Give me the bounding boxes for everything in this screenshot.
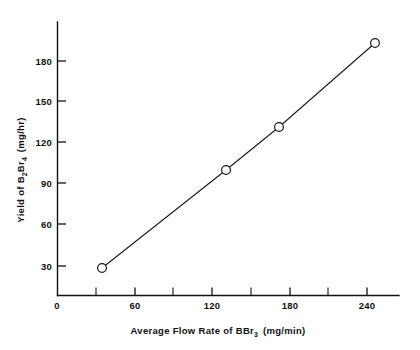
x-tick-label-180: 180	[282, 300, 298, 311]
y-axis-tick-labels: 30 60 90 120 150 180	[36, 56, 52, 272]
y-axis-title-mid: Br	[15, 161, 26, 172]
x-tick-label-60: 60	[130, 300, 141, 311]
data-point-4	[371, 39, 380, 48]
data-point-3	[275, 123, 284, 132]
y-axis-title-post: (mg/hr)	[15, 117, 26, 152]
y-tick-label-150: 150	[36, 96, 52, 107]
data-point-1	[98, 264, 107, 273]
y-tick-label-180: 180	[36, 56, 52, 67]
x-axis-ticks	[96, 288, 367, 296]
y-axis-title-pre: Yield of B	[15, 176, 26, 222]
chart-figure: 30 60 90 120 150 180 0 60 120 180 240	[0, 0, 420, 350]
data-point-markers	[98, 39, 380, 273]
x-tick-label-0: 0	[54, 300, 59, 311]
data-point-2	[222, 166, 231, 175]
y-tick-label-30: 30	[41, 261, 52, 272]
y-tick-label-120: 120	[36, 137, 52, 148]
x-axis-title: Average Flow Rate of BBr3(mg/min)	[131, 325, 306, 338]
x-tick-label-240: 240	[359, 300, 375, 311]
y-tick-label-60: 60	[41, 219, 52, 230]
x-axis-tick-labels: 0 60 120 180 240	[54, 300, 375, 311]
y-axis-ticks	[58, 61, 67, 266]
svg-text:Average Flow Rate of BBr3(mg/m: Average Flow Rate of BBr3(mg/min)	[131, 325, 306, 338]
x-axis-title-post: (mg/min)	[263, 325, 306, 336]
svg-text:Yield of B2Br4(mg/hr): Yield of B2Br4(mg/hr)	[15, 117, 28, 222]
y-tick-label-90: 90	[41, 178, 52, 189]
x-axis-title-pre: Average Flow Rate of BBr	[131, 325, 255, 336]
scatter-line-plot: 30 60 90 120 150 180 0 60 120 180 240	[0, 0, 420, 350]
x-tick-label-120: 120	[204, 300, 220, 311]
series-line-yield	[102, 43, 375, 268]
axis-lines	[58, 22, 400, 296]
y-axis-title-sub2: 4	[21, 157, 28, 161]
x-axis-title-sub: 3	[254, 331, 258, 338]
y-axis-title: Yield of B2Br4(mg/hr)	[15, 117, 28, 222]
